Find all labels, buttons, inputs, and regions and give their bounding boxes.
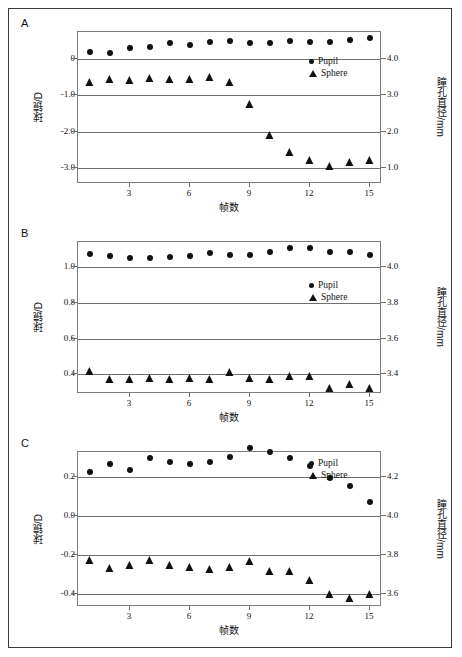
panel-a-ylabel-right: 瞳孔直径/mm — [433, 77, 448, 136]
data-point-sphere — [205, 565, 213, 573]
x-tick-mark — [309, 393, 310, 397]
data-point-pupil — [147, 255, 153, 261]
x-axis-tick: 9 — [237, 398, 261, 408]
circle-marker-icon — [309, 59, 314, 64]
x-axis-tick: 9 — [237, 188, 261, 198]
legend-item-pupil: Pupil — [309, 55, 347, 67]
x-tick-mark — [129, 606, 130, 610]
data-point-pupil — [167, 40, 173, 46]
y-axis-tick-right: 3.0 — [387, 89, 431, 99]
y-tick-mark-left — [72, 373, 77, 374]
y-tick-mark-left — [72, 58, 77, 59]
y-tick-mark-right — [381, 167, 386, 168]
y-tick-mark-left — [72, 338, 77, 339]
y-tick-mark-left — [72, 554, 77, 555]
gridline — [78, 594, 380, 595]
panel-b-legend: Pupil Sphere — [309, 279, 347, 303]
x-axis-tick: 12 — [297, 398, 321, 408]
y-tick-mark-right — [381, 554, 386, 555]
data-point-sphere — [325, 162, 333, 170]
y-tick-mark-left — [72, 476, 77, 477]
legend-label-sphere: Sphere — [321, 469, 347, 481]
legend-label-pupil: Pupil — [318, 55, 338, 67]
data-point-sphere — [205, 375, 213, 383]
panel-b-plot-area — [77, 241, 381, 393]
data-point-pupil — [107, 50, 113, 56]
y-tick-mark-left — [72, 167, 77, 168]
data-point-sphere — [165, 375, 173, 383]
data-point-pupil — [227, 454, 233, 460]
data-point-pupil — [87, 251, 93, 257]
y-axis-tick-left: 0.4 — [35, 368, 75, 378]
x-axis-tick: 3 — [117, 188, 141, 198]
y-axis-tick-right: 3.6 — [387, 333, 431, 343]
gridline — [78, 339, 380, 340]
panel-a: A 球镜/D 瞳孔直径/mm 帧数 Pupil Sphere 0-1.0-2.0… — [9, 13, 453, 223]
y-axis-tick-left: 0 — [35, 53, 75, 63]
data-point-pupil — [107, 461, 113, 467]
panel-c-letter: C — [21, 437, 29, 449]
legend-label-pupil: Pupil — [318, 457, 338, 469]
y-tick-mark-right — [381, 476, 386, 477]
data-point-pupil — [247, 40, 253, 46]
y-tick-mark-right — [381, 58, 386, 59]
data-point-pupil — [287, 455, 293, 461]
x-tick-mark — [249, 183, 250, 187]
data-point-sphere — [145, 556, 153, 564]
legend-item-sphere: Sphere — [309, 67, 347, 79]
y-axis-tick-right: 4.0 — [387, 510, 431, 520]
data-point-sphere — [105, 375, 113, 383]
y-tick-mark-right — [381, 515, 386, 516]
panel-c: C 球镜/D 瞳孔直径/mm 帧数 Pupil Sphere 0.20.0-0.… — [9, 433, 453, 645]
data-point-sphere — [225, 563, 233, 571]
data-point-sphere — [185, 75, 193, 83]
data-point-pupil — [307, 245, 313, 251]
data-point-pupil — [307, 39, 313, 45]
x-tick-mark — [189, 393, 190, 397]
legend-item-sphere: Sphere — [309, 469, 347, 481]
data-point-sphere — [185, 563, 193, 571]
gridline — [78, 267, 380, 268]
y-tick-mark-right — [381, 266, 386, 267]
data-point-sphere — [165, 75, 173, 83]
y-axis-tick-right: 4.0 — [387, 261, 431, 271]
data-point-sphere — [125, 76, 133, 84]
x-axis-tick: 6 — [177, 611, 201, 621]
gridline — [78, 555, 380, 556]
data-point-pupil — [207, 250, 213, 256]
x-axis-tick: 15 — [357, 188, 381, 198]
panel-b: B 球镜/D 瞳孔直径/mm 帧数 Pupil Sphere 1.00.80.6… — [9, 223, 453, 433]
y-axis-tick-left: -0.2 — [35, 549, 75, 559]
data-point-sphere — [225, 78, 233, 86]
data-point-sphere — [105, 564, 113, 572]
data-point-pupil — [247, 445, 253, 451]
data-point-pupil — [127, 255, 133, 261]
y-tick-mark-left — [72, 94, 77, 95]
triangle-marker-icon — [309, 472, 317, 479]
data-point-pupil — [267, 40, 273, 46]
data-point-pupil — [127, 45, 133, 51]
data-point-pupil — [207, 459, 213, 465]
x-tick-mark — [369, 606, 370, 610]
y-tick-mark-left — [72, 593, 77, 594]
panel-a-plot-area — [77, 31, 381, 183]
data-point-pupil — [167, 254, 173, 260]
x-tick-mark — [129, 393, 130, 397]
y-axis-tick-left: -0.4 — [35, 588, 75, 598]
gridline — [78, 168, 380, 169]
data-point-pupil — [347, 249, 353, 255]
data-point-sphere — [265, 131, 273, 139]
panel-a-xlabel: 帧数 — [77, 199, 381, 214]
data-point-sphere — [85, 367, 93, 375]
data-point-pupil — [167, 459, 173, 465]
y-tick-mark-right — [381, 131, 386, 132]
data-point-sphere — [365, 156, 373, 164]
x-tick-mark — [129, 183, 130, 187]
data-point-pupil — [187, 42, 193, 48]
legend-label-sphere: Sphere — [321, 67, 347, 79]
data-point-sphere — [145, 74, 153, 82]
panel-b-ylabel-right: 瞳孔直径/mm — [433, 287, 448, 346]
data-point-sphere — [305, 372, 313, 380]
data-point-sphere — [285, 372, 293, 380]
data-point-pupil — [127, 467, 133, 473]
